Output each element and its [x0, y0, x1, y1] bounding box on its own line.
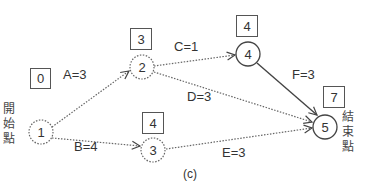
edge-c — [154, 55, 235, 66]
edge-d — [154, 72, 312, 122]
time-box-node-2: 3 — [130, 28, 152, 50]
time-box-node-1: 0 — [30, 68, 51, 89]
node-2-label: 2 — [136, 61, 148, 74]
time-box-node-3: 4 — [142, 112, 164, 134]
edge-b-label: B=4 — [74, 140, 98, 153]
start-label-char-2: 始 — [2, 117, 16, 132]
node-4-label: 4 — [242, 48, 254, 61]
node-3-label: 3 — [147, 144, 159, 157]
edge-f-label: F=3 — [292, 68, 315, 81]
node-1-label: 1 — [35, 126, 47, 139]
network-diagram-canvas — [0, 0, 367, 190]
edge-d-label: D=3 — [187, 90, 211, 103]
time-box-node-4: 4 — [236, 15, 258, 37]
edge-c-label: C=1 — [174, 40, 198, 53]
end-label-char-1: 結 — [341, 110, 355, 125]
start-label: 開 始 點 — [2, 102, 16, 147]
end-label: 結 束 點 — [341, 110, 355, 155]
edge-e-label: E=3 — [222, 146, 246, 159]
edge-a-label: A=3 — [63, 68, 87, 81]
end-label-char-3: 點 — [341, 140, 355, 155]
start-label-char-3: 點 — [2, 132, 16, 147]
start-label-char-1: 開 — [2, 102, 16, 117]
end-label-char-2: 束 — [341, 125, 355, 140]
time-box-node-5: 7 — [323, 86, 345, 108]
node-5-label: 5 — [319, 121, 331, 134]
figure-caption: (c) — [183, 168, 197, 180]
